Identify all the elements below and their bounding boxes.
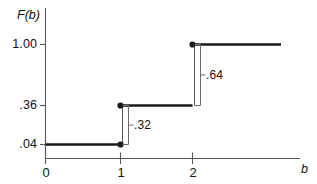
x-tick-label-2: 2 [183, 166, 203, 179]
step-curve-group [46, 45, 282, 145]
annotation-label-lower: .32 [134, 119, 151, 131]
bracket-path-lower [123, 106, 129, 145]
x-axis-label: b [301, 163, 308, 176]
annotation-bracket-upper [195, 45, 206, 106]
axes-group [46, 8, 301, 159]
y-axis-label: F(b) [17, 9, 40, 22]
annotation-bracket-lower [123, 106, 134, 145]
y-tick-label-2: .36 [0, 99, 37, 112]
x-tick-label-0: 0 [36, 166, 56, 179]
step-function-chart: F(b) 1.00 .36 .04 0 1 2 b .32 .64 [0, 0, 317, 184]
x-tick-label-1: 1 [111, 166, 131, 179]
y-tick-label-3: .04 [0, 138, 37, 151]
data-points-group [117, 41, 195, 147]
bracket-path-upper [195, 45, 201, 106]
chart-plot-area [0, 0, 317, 184]
y-axis-ticks [40, 45, 46, 145]
annotation-label-upper: .64 [206, 69, 223, 81]
y-tick-label-1: 1.00 [0, 38, 37, 51]
